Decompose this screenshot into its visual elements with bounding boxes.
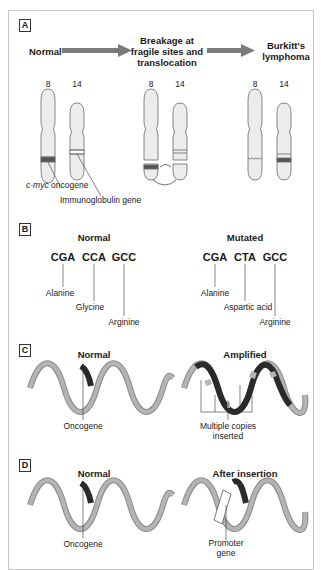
dna-strand-normal [30, 480, 173, 529]
promoter-gene-label: Promoter gene [209, 538, 244, 558]
dna-strand-after-insertion [184, 480, 305, 530]
oncogene-label: Oncogene [63, 539, 102, 549]
